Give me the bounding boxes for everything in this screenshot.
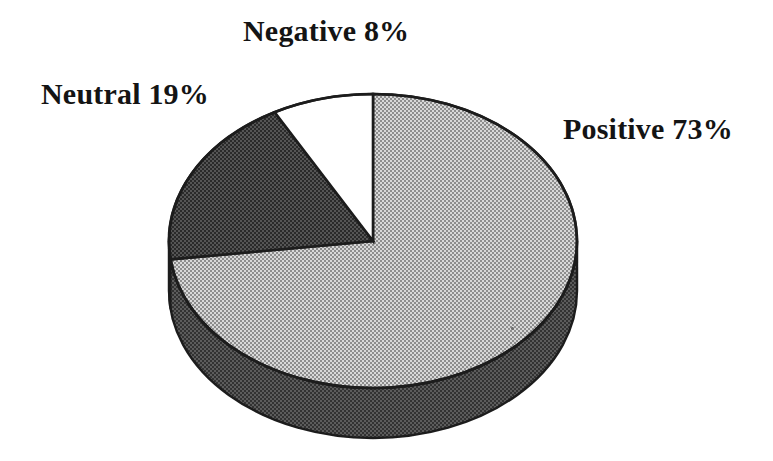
- pie-label-neutral: Neutral 19%: [41, 79, 209, 109]
- scan-speck: [511, 327, 514, 330]
- pie-label-positive: Positive 73%: [563, 114, 733, 144]
- pie-chart-figure: Negative 8% Neutral 19% Positive 73%: [0, 0, 773, 461]
- pie-label-negative: Negative 8%: [243, 16, 409, 46]
- pie-chart-canvas: [0, 0, 773, 461]
